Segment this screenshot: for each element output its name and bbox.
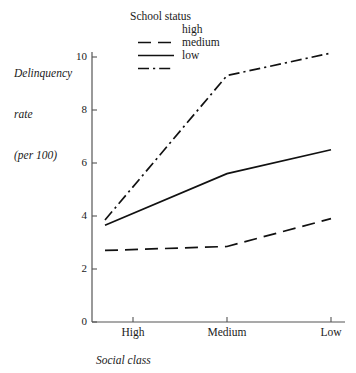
data-series-group	[105, 53, 331, 250]
legend-line-swatch-medium	[138, 43, 174, 45]
legend: School status highmediumlow	[130, 10, 260, 63]
y-axis-tick-marks	[92, 57, 97, 322]
legend-label: medium	[182, 36, 220, 48]
series-line-medium	[105, 150, 331, 226]
y-tick-label: 6	[61, 156, 87, 169]
legend-label: low	[182, 49, 199, 61]
delinquency-rate-line-chart: Delinquency rate (per 100) Social class …	[0, 0, 356, 373]
y-tick-label: 8	[61, 103, 87, 116]
x-tick-label: Medium	[192, 326, 262, 340]
y-tick-label: 4	[61, 209, 87, 222]
x-tick-label: Low	[296, 326, 356, 340]
y-tick-label: 0	[61, 315, 87, 328]
legend-line-swatch-high	[138, 30, 174, 32]
legend-line-swatch-low	[138, 56, 174, 58]
x-tick-label: High	[98, 326, 168, 340]
y-tick-label: 10	[61, 50, 87, 63]
x-axis-tick-marks	[133, 317, 331, 322]
y-axis-title-line-1: Delinquency	[14, 67, 86, 81]
series-line-low	[105, 53, 331, 220]
legend-entries: highmediumlow	[130, 24, 260, 63]
y-tick-label: 2	[61, 262, 87, 275]
legend-title: School status	[130, 10, 260, 22]
series-line-high	[105, 219, 331, 251]
legend-label: high	[182, 23, 202, 35]
legend-entry-low: low	[130, 50, 260, 63]
x-axis-title: Social class	[96, 354, 151, 368]
